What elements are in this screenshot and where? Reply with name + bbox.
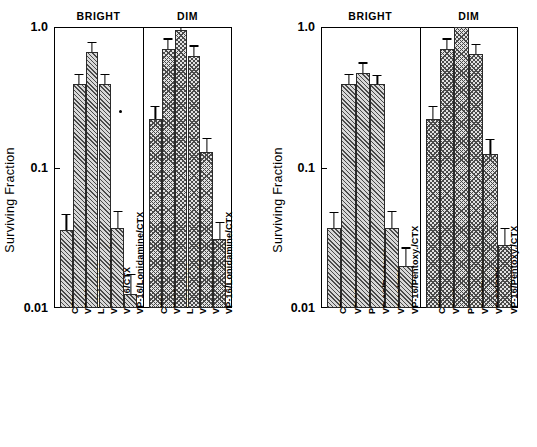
group-header-bright: BRIGHT [325, 10, 415, 22]
error-bar [149, 106, 162, 120]
x-tick-label: VP-16/Pentoxy./CTX [509, 226, 519, 314]
bar [356, 73, 370, 308]
group-header-bright: BRIGHT [54, 10, 144, 22]
y-tick-label: 1.0 [273, 21, 315, 34]
error-bar [440, 38, 454, 48]
error-bar [327, 212, 341, 228]
bar [440, 49, 454, 308]
figure-canvas: Surviving Fraction 1.00.10.01BRIGHTDIMCT… [0, 0, 537, 447]
error-bar [162, 38, 175, 48]
bar [162, 49, 175, 308]
error-bar [426, 106, 440, 120]
bar [426, 119, 440, 308]
error-bar [200, 138, 213, 153]
chart-panel-left: Surviving Fraction 1.00.10.01BRIGHTDIMCT… [0, 0, 268, 447]
error-bar [60, 214, 73, 230]
bar [341, 84, 355, 308]
group-header-dim: DIM [143, 10, 233, 22]
y-axis-label-left: Surviving Fraction [3, 0, 21, 120]
y-tick-mark [54, 168, 60, 169]
error-bar [99, 74, 112, 85]
chart-panel-right: Surviving Fraction 1.00.10.01BRIGHTDIMCT… [268, 0, 536, 447]
error-bar [356, 62, 370, 73]
error-bar [483, 139, 497, 154]
x-tick-label: VP-16/Pentoxy./CTX [410, 226, 420, 314]
y-tick-label: 0.1 [6, 162, 48, 175]
bar [454, 27, 468, 308]
error-bar [73, 74, 86, 85]
error-bar [469, 44, 483, 54]
error-bar [188, 45, 201, 56]
y-tick-label: 0.01 [273, 302, 315, 315]
bar [73, 84, 86, 308]
error-bar [370, 75, 384, 84]
error-bar [175, 27, 188, 30]
group-header-dim: DIM [424, 10, 514, 22]
bar [149, 119, 162, 308]
y-tick-label: 0.1 [273, 162, 315, 175]
x-tick-label: VP-16/Lonidamine/CTX [224, 211, 234, 314]
y-tick-mark [321, 168, 327, 169]
y-axis-label-right: Surviving Fraction [271, 0, 289, 120]
y-tick-label: 1.0 [6, 21, 48, 34]
error-bar [86, 42, 99, 52]
error-bar [111, 211, 124, 228]
y-tick-label: 0.01 [6, 302, 48, 315]
scan-speck [119, 110, 122, 113]
x-tick-label: VP-16/Lonidamine/CTX [135, 211, 145, 314]
error-bar [341, 74, 355, 85]
error-bar [385, 211, 399, 228]
